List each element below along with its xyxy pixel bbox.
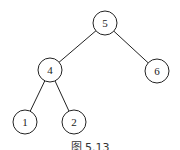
figure-caption: 图 5.13 (0, 141, 180, 150)
node-label: 2 (71, 116, 77, 128)
node-5: 5 (93, 11, 117, 35)
node-label: 1 (22, 116, 28, 128)
node-6: 6 (145, 59, 169, 83)
node-label: 5 (102, 17, 108, 29)
node-label: 4 (47, 64, 53, 76)
node-label: 6 (154, 65, 160, 77)
node-1: 1 (13, 110, 37, 134)
node-2: 2 (62, 110, 86, 134)
tree-diagram: 5 4 6 1 2 (0, 0, 180, 150)
node-4: 4 (38, 58, 62, 82)
